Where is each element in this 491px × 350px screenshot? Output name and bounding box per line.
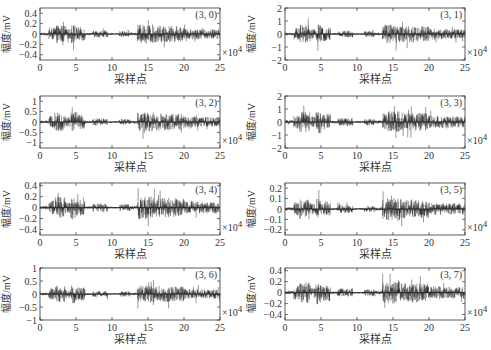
x-tick-label: 10: [352, 62, 362, 73]
y-tick-label: 0.2: [25, 18, 38, 29]
x-multiplier-label: ×104: [222, 44, 243, 58]
subplot-5: 05101520250.20.10−0.1−0.2(3, 5)×104采样点幅度…: [245, 183, 488, 260]
y-tick-label: −0.2: [19, 39, 37, 50]
y-tick-label: −1: [26, 315, 37, 326]
x-tick-label: 25: [215, 62, 225, 73]
y-axis-label: 幅度/mV: [0, 14, 12, 53]
y-tick-label: 1: [32, 263, 37, 274]
x-tick-label: 25: [215, 237, 225, 248]
signal-trace: [40, 20, 220, 50]
y-axis-label: 幅度/mV: [245, 14, 257, 53]
x-axis-label: 采样点: [359, 160, 392, 173]
y-axis-label: 幅度/mV: [245, 189, 257, 228]
subplot-7: 05101520250.40.20−0.2−0.4(3, 7)×104采样点幅度…: [245, 265, 488, 345]
x-multiplier-label: ×104: [467, 304, 488, 318]
y-tick-label: −0.4: [264, 309, 282, 320]
x-tick-label: 10: [107, 150, 117, 161]
x-tick-label: 20: [179, 150, 189, 161]
y-axis-label: 幅度/mV: [0, 102, 12, 141]
x-tick-label: 20: [424, 150, 434, 161]
x-tick-label: 5: [74, 322, 79, 333]
x-axis-label: 采样点: [359, 72, 392, 85]
x-axis-label: 采样点: [359, 247, 392, 260]
x-tick-label: 5: [319, 237, 324, 248]
x-tick-label: 5: [74, 150, 79, 161]
x-tick-label: 15: [388, 62, 398, 73]
y-tick-label: 0: [32, 289, 37, 300]
x-tick-label: 25: [215, 322, 225, 333]
x-multiplier-label: ×104: [467, 44, 488, 58]
x-axis-label: 采样点: [114, 160, 147, 173]
x-tick-label: 15: [143, 150, 153, 161]
x-axis-label: 采样点: [114, 72, 147, 85]
panel-tag: (3, 0): [195, 9, 217, 21]
x-axis-label: 采样点: [114, 332, 147, 345]
panel-tag: (3, 1): [440, 9, 462, 21]
y-tick-label: 0: [32, 117, 37, 128]
y-tick-label: 0: [277, 204, 282, 215]
x-multiplier-label: ×104: [467, 132, 488, 146]
y-tick-label: 0.2: [270, 183, 283, 194]
y-tick-label: 1: [32, 96, 37, 107]
signal-trace: [40, 107, 220, 139]
y-axis-label: 幅度/mV: [0, 189, 12, 228]
y-axis-label: 幅度/mV: [245, 274, 257, 313]
x-tick-label: 0: [38, 150, 43, 161]
x-tick-label: 20: [424, 237, 434, 248]
y-tick-label: 0.5: [25, 276, 38, 287]
x-multiplier-label: ×104: [222, 219, 243, 233]
x-tick-label: 15: [143, 62, 153, 73]
x-tick-label: 0: [38, 62, 43, 73]
panel-tag: (3, 4): [195, 184, 217, 196]
subplot-2: 051015202510.50−0.5−1(3, 2)×104采样点幅度/mV: [0, 96, 243, 173]
subplot-4: 05101520250.40.20−0.2−0.4(3, 4)×104采样点幅度…: [0, 180, 243, 260]
x-tick-label: 20: [179, 62, 189, 73]
x-tick-label: 20: [179, 322, 189, 333]
y-axis-label: 幅度/mV: [245, 102, 257, 141]
signal-trace: [285, 273, 465, 307]
y-tick-label: −0.4: [19, 49, 37, 60]
panel-tag: (3, 3): [440, 97, 462, 109]
figure-grid: 05101520250.40.20−0.2−0.4(3, 0)×104采样点幅度…: [0, 0, 491, 350]
y-tick-label: 0: [277, 29, 282, 40]
x-tick-label: 15: [143, 237, 153, 248]
subplot-1: 0510152025210−1−2(3, 1)×104采样点幅度/mV: [245, 3, 488, 86]
x-tick-label: 20: [424, 62, 434, 73]
x-tick-label: 10: [352, 237, 362, 248]
x-tick-label: 10: [107, 322, 117, 333]
y-tick-label: 0: [277, 287, 282, 298]
x-tick-label: 25: [460, 150, 470, 161]
y-tick-label: 0: [32, 29, 37, 40]
x-tick-label: 10: [352, 322, 362, 333]
x-tick-label: 5: [74, 62, 79, 73]
x-multiplier-label: ×104: [467, 219, 488, 233]
x-axis-label: 采样点: [359, 332, 392, 345]
x-tick-label: 10: [107, 62, 117, 73]
x-tick-label: 25: [460, 322, 470, 333]
x-multiplier-label: ×104: [222, 304, 243, 318]
y-tick-label: −0.4: [19, 224, 37, 235]
x-tick-label: 25: [460, 62, 470, 73]
x-tick-label: 10: [352, 150, 362, 161]
y-tick-label: 0.2: [270, 276, 283, 287]
panel-tag: (3, 2): [195, 97, 217, 109]
x-axis-label: 采样点: [114, 247, 147, 260]
x-tick-label: 5: [319, 150, 324, 161]
y-tick-label: 0.5: [25, 106, 38, 117]
panel-tag: (3, 7): [440, 269, 462, 281]
signal-trace: [285, 19, 465, 51]
y-tick-label: 0.4: [25, 180, 38, 191]
x-tick-label: 15: [388, 150, 398, 161]
x-tick-label: 0: [38, 322, 43, 333]
y-tick-label: −0.2: [19, 213, 37, 224]
y-tick-label: 0: [32, 202, 37, 213]
subplot-6: 051015202510.50−0.5−1(3, 6)×104采样点幅度/mV: [0, 263, 243, 346]
y-tick-label: 0.2: [25, 191, 38, 202]
x-tick-label: 25: [215, 150, 225, 161]
x-tick-label: 0: [283, 62, 288, 73]
y-tick-label: 2: [277, 3, 282, 14]
y-tick-label: −1: [26, 137, 37, 148]
y-tick-label: −0.2: [264, 298, 282, 309]
y-tick-label: −0.5: [19, 127, 37, 138]
y-tick-label: −0.1: [264, 214, 282, 225]
